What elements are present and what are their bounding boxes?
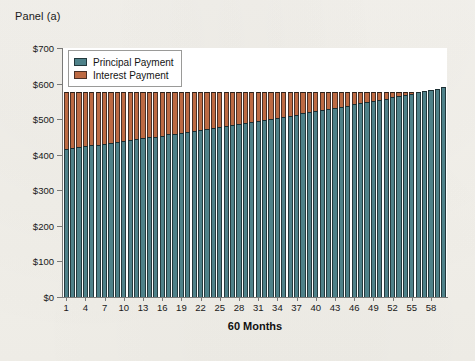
bar-month-1 <box>64 92 69 297</box>
bar-month-40 <box>313 92 318 297</box>
bar-segment-interest <box>134 92 139 139</box>
bar-segment-interest <box>249 92 254 122</box>
bar-segment-principal <box>64 149 69 297</box>
bar-month-24 <box>211 92 216 297</box>
x-axis-tick <box>124 297 125 301</box>
bar-segment-principal <box>96 145 101 297</box>
bar-month-52 <box>390 92 395 297</box>
bar-segment-principal <box>275 118 280 297</box>
bar-segment-interest <box>64 92 69 149</box>
x-axis-tick <box>143 297 144 301</box>
bar-segment-interest <box>217 92 222 127</box>
bar-month-38 <box>300 92 305 297</box>
bar-segment-principal <box>83 146 88 297</box>
bar-segment-principal <box>409 94 414 297</box>
bar-segment-principal <box>102 144 107 297</box>
bar-month-46 <box>352 92 357 297</box>
bar-segment-principal <box>166 134 171 297</box>
bar-segment-principal <box>128 140 133 297</box>
bar-month-54 <box>403 92 408 297</box>
bar-segment-interest <box>345 92 350 106</box>
x-axis-tick-label: 58 <box>426 302 437 313</box>
bar-segment-interest <box>204 92 209 129</box>
bar-month-59 <box>435 89 440 297</box>
bar-segment-principal <box>352 104 357 297</box>
bar-segment-interest <box>147 92 152 137</box>
x-axis-tick <box>335 297 336 301</box>
bar-month-48 <box>364 92 369 297</box>
y-axis-tick <box>57 261 63 262</box>
bar-segment-interest <box>236 92 241 124</box>
bar-month-32 <box>262 92 267 297</box>
bar-segment-principal <box>230 125 235 297</box>
bar-segment-interest <box>128 92 133 140</box>
x-axis-tick <box>201 297 202 301</box>
bar-month-10 <box>121 92 126 297</box>
bar-segment-principal <box>172 134 177 297</box>
bar-segment-principal <box>364 102 369 297</box>
bar-month-36 <box>288 92 293 297</box>
y-axis-tick-label: $600 <box>8 78 54 89</box>
bar-segment-interest <box>166 92 171 134</box>
bar-segment-principal <box>204 129 209 297</box>
bar-segment-principal <box>428 90 433 297</box>
bar-segment-interest <box>358 92 363 103</box>
bar-segment-interest <box>352 92 357 104</box>
bar-segment-interest <box>224 92 229 126</box>
x-axis-tick-label: 13 <box>138 302 149 313</box>
bar-segment-interest <box>185 92 190 131</box>
bar-segment-principal <box>281 117 286 297</box>
bar-segment-principal <box>320 110 325 297</box>
bar-month-60 <box>441 87 446 297</box>
bar-month-12 <box>134 92 139 297</box>
bar-month-49 <box>371 92 376 297</box>
bar-month-47 <box>358 92 363 297</box>
bar-month-30 <box>249 92 254 297</box>
bar-segment-principal <box>339 107 344 297</box>
y-axis-tick-label: $700 <box>8 43 54 54</box>
x-axis-tick <box>373 297 374 301</box>
bar-segment-principal <box>294 115 299 297</box>
bar-month-4 <box>83 92 88 297</box>
bar-segment-principal <box>185 132 190 297</box>
bar-segment-interest <box>172 92 177 134</box>
bar-month-13 <box>140 92 145 297</box>
bar-segment-interest <box>243 92 248 123</box>
x-axis-tick <box>393 297 394 301</box>
bar-segment-principal <box>416 92 421 297</box>
bar-month-34 <box>275 92 280 297</box>
x-axis-tick <box>162 297 163 301</box>
bar-segment-principal <box>224 126 229 297</box>
bar-month-35 <box>281 92 286 297</box>
bar-segment-principal <box>217 127 222 297</box>
bar-segment-interest <box>140 92 145 138</box>
x-axis-tick <box>297 297 298 301</box>
x-axis-tick-label: 16 <box>157 302 168 313</box>
bar-segment-interest <box>300 92 305 113</box>
y-axis-tick <box>57 84 63 85</box>
bar-segment-principal <box>160 136 165 297</box>
bar-segment-interest <box>230 92 235 125</box>
bar-segment-interest <box>339 92 344 107</box>
bar-segment-interest <box>320 92 325 110</box>
bar-segment-interest <box>307 92 312 112</box>
x-axis-tick-label: 43 <box>330 302 341 313</box>
bar-month-6 <box>96 92 101 297</box>
bar-segment-interest <box>108 92 113 143</box>
bar-month-19 <box>179 92 184 297</box>
x-axis-tick-label: 7 <box>102 302 107 313</box>
bar-segment-principal <box>121 141 126 297</box>
legend-item-principal: Principal Payment <box>74 56 174 68</box>
legend-label-interest: Interest Payment <box>93 70 169 81</box>
bar-month-21 <box>192 92 197 297</box>
bar-segment-principal <box>147 137 152 297</box>
bar-segment-principal <box>313 111 318 297</box>
bar-month-56 <box>416 92 421 297</box>
bar-segment-interest <box>332 92 337 108</box>
bar-segment-principal <box>243 123 248 297</box>
x-axis-tick-label: 55 <box>407 302 418 313</box>
bar-month-5 <box>89 92 94 297</box>
x-axis-tick-label: 28 <box>234 302 245 313</box>
x-axis-tick <box>354 297 355 301</box>
bar-segment-principal <box>249 122 254 297</box>
